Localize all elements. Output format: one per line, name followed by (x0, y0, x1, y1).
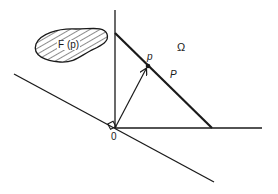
vector-arrow (115, 69, 146, 128)
diagram-canvas (0, 0, 278, 194)
hyperplane-P-line (115, 33, 212, 128)
point-p-dot (146, 64, 151, 69)
label-F-of-p: F (p) (57, 40, 80, 50)
label-point-p: p (147, 52, 153, 62)
label-origin: 0 (111, 132, 117, 142)
label-line-P: P (170, 70, 177, 80)
label-omega: Ω (177, 42, 185, 53)
